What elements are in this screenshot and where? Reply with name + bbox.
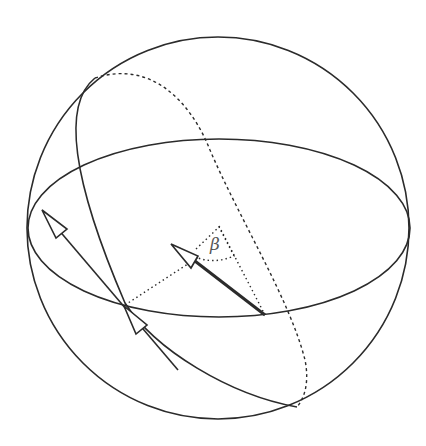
sphere-outline <box>27 37 409 419</box>
tilted-circle-front <box>76 78 297 407</box>
surface-vector-shaft <box>46 215 178 370</box>
center-vector-arrowhead-icon <box>171 244 198 268</box>
angle-beta-label: β <box>209 234 220 254</box>
tilted-circle-back <box>95 74 307 407</box>
sphere-diagram: β <box>0 0 426 446</box>
surface-vector-arrowhead-icon <box>42 210 67 238</box>
